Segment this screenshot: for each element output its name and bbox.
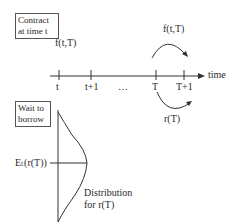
forward-arc: [152, 44, 186, 58]
tick-label-T: T: [152, 81, 158, 92]
tick-label-T-plus-1: T+1: [176, 81, 193, 92]
axis-arrowhead-icon: [198, 73, 205, 79]
forward-arc-label: f(t,T): [163, 23, 184, 34]
contract-box: Contract at time t: [15, 13, 59, 39]
rate-arc: [157, 92, 190, 108]
contract-box-line2: at time t: [18, 26, 56, 37]
tick-label-t: t: [56, 81, 59, 92]
time-axis-label: time: [208, 69, 226, 80]
wait-box-line1: Wait to: [18, 103, 48, 114]
distribution-label-line2: for r(T): [84, 199, 114, 210]
rate-arc-label: r(T): [164, 113, 180, 124]
distribution-curve: [58, 112, 87, 222]
forward-rate-label: f(t,T): [55, 37, 76, 48]
wait-box: Wait to borrow: [15, 101, 51, 127]
wait-box-line2: borrow: [18, 114, 48, 125]
expectation-label: Eₜ(r(T)): [15, 157, 47, 168]
distribution-label-line1: Distribution: [84, 187, 132, 198]
contract-box-line1: Contract: [18, 15, 56, 26]
tick-label-t-plus-1: t+1: [85, 81, 98, 92]
tick-label-ellipsis: …: [118, 81, 128, 92]
